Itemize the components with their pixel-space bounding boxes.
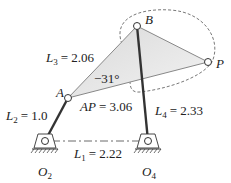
joint-P [205, 59, 212, 66]
label-L1: L1= 2.22 [73, 146, 122, 163]
label-O2: O2 [38, 164, 52, 181]
label-L4: L4= 2.33 [154, 103, 203, 120]
label-angle: −31° [94, 71, 120, 86]
joint-O2 [42, 138, 49, 145]
label-L3: L3= 2.06 [45, 50, 95, 67]
label-P: P [215, 56, 224, 71]
label-O4: O4 [142, 164, 156, 181]
joint-A [65, 95, 72, 102]
label-B: B [145, 12, 153, 27]
label-L2: L2= 1.0 [5, 108, 48, 125]
label-A: A [55, 85, 64, 100]
linkage-diagram: B P A L3= 2.06 −31° AP= 3.06 L2= 1.0 L4=… [0, 0, 231, 183]
joint-B [134, 23, 141, 30]
joint-O4 [145, 138, 152, 145]
label-AP: AP= 3.06 [79, 99, 133, 114]
